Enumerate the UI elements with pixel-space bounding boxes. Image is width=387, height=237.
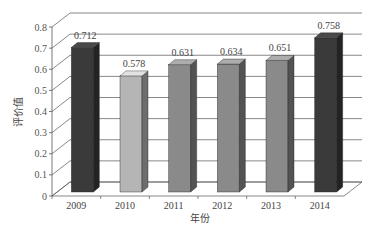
y-axis-title: 评价值 <box>12 97 24 127</box>
x-tick-label: 2012 <box>212 200 232 211</box>
bar-2010: 0.578 <box>120 58 148 192</box>
y-axis: 00.10.20.30.40.50.60.70.8 <box>35 22 53 202</box>
value-label: 0.758 <box>317 20 340 31</box>
value-label: 0.634 <box>220 46 243 57</box>
value-label: 0.712 <box>74 30 97 41</box>
y-tick-label: 0.5 <box>35 85 48 96</box>
bar-2011: 0.631 <box>169 47 197 192</box>
bar-2013: 0.651 <box>266 42 294 192</box>
value-label: 0.651 <box>269 42 292 53</box>
x-axis: 200920102011201220132014 <box>52 196 330 211</box>
value-label: 0.578 <box>123 58 146 69</box>
x-tick-label: 2011 <box>164 200 184 211</box>
x-tick-label: 2013 <box>261 200 281 211</box>
x-tick-label: 2009 <box>66 200 86 211</box>
y-tick-label: 0.2 <box>35 148 48 159</box>
y-tick-label: 0.7 <box>35 43 48 54</box>
y-tick-label: 0 <box>42 191 47 202</box>
bar-chart: 00.10.20.30.40.50.60.70.8 0.7120.5780.63… <box>0 0 387 237</box>
x-axis-title: 年份 <box>190 212 210 224</box>
y-tick-label: 0.1 <box>35 169 48 180</box>
x-tick-label: 2014 <box>310 200 330 211</box>
y-tick-label: 0.3 <box>35 127 48 138</box>
bar-2014: 0.758 <box>315 20 343 192</box>
y-tick-label: 0.6 <box>35 64 48 75</box>
bars: 0.7120.5780.6310.6340.6510.758 <box>71 20 342 192</box>
y-tick-label: 0.8 <box>35 22 48 33</box>
x-tick-label: 2010 <box>115 200 135 211</box>
value-label: 0.631 <box>171 47 194 58</box>
y-tick-label: 0.4 <box>35 106 48 117</box>
bar-2009: 0.712 <box>71 30 99 192</box>
bar-2012: 0.634 <box>217 46 245 192</box>
